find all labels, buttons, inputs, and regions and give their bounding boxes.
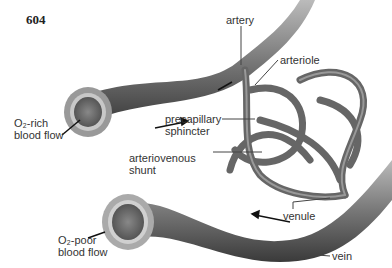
capillary-network [230,70,364,197]
label-o2-rich-blood-flow: O₂-rich blood flow [14,117,64,141]
label-o2-poor-blood-flow: O₂-poor blood flow [58,234,108,258]
page-number: 604 [26,12,46,28]
label-precapillary-sphincter: precapillary sphincter [165,113,221,137]
label-vein: vein [332,250,352,262]
label-venule: venule [283,210,315,222]
label-arteriole: arteriole [280,54,320,66]
label-artery: artery [226,14,254,26]
label-arteriovenous-shunt: arteriovenous shunt [129,152,196,176]
